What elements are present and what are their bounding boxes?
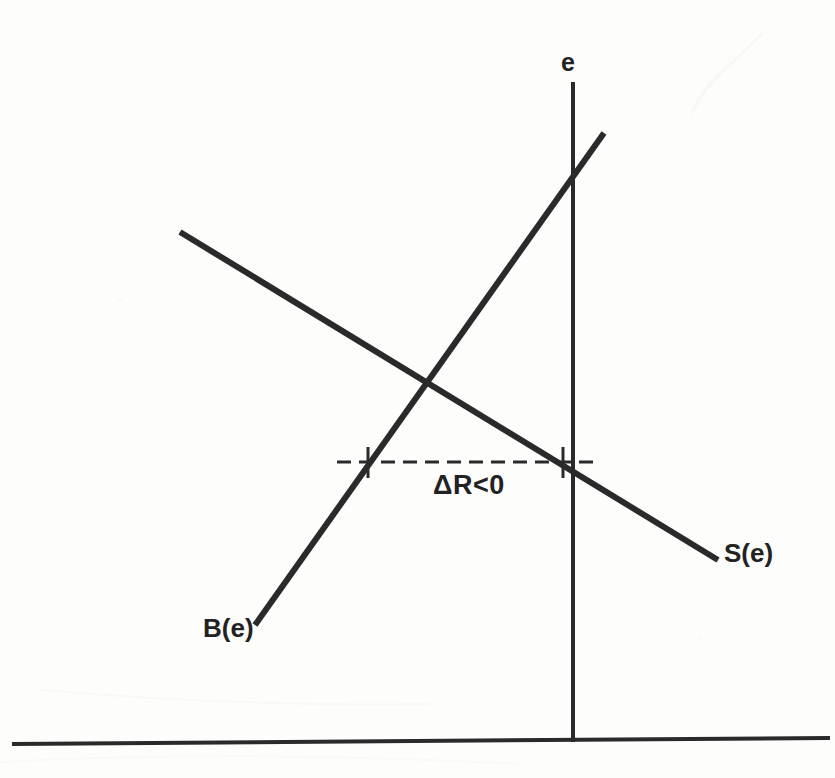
reserve-change-annotation: ΔR<0 — [433, 470, 505, 501]
supply-curve-label: S(e) — [724, 538, 773, 569]
baseline-rule — [12, 738, 830, 744]
figure-drawing — [0, 0, 835, 778]
demand-curve-label: B(e) — [203, 613, 254, 644]
demand-curve-line — [255, 133, 604, 625]
figure-canvas: e B(e) S(e) ΔR<0 — [0, 0, 835, 778]
vertical-axis-label: e — [561, 48, 575, 77]
supply-curve-line — [180, 232, 718, 560]
scan-artifacts — [0, 34, 762, 764]
